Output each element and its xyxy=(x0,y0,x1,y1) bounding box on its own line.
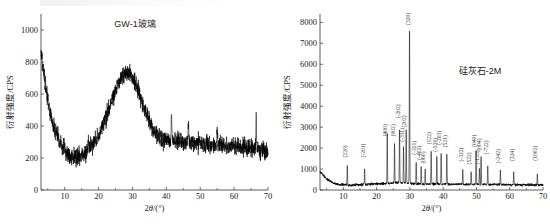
x-tick-label: 70 xyxy=(264,191,273,201)
x-axis-title-unit: /(°) xyxy=(153,203,165,213)
x-tick-label: 70 xyxy=(539,191,548,201)
x-tick-label: 30 xyxy=(406,191,415,201)
peak-index-label: (-322) xyxy=(458,147,465,161)
peak-index-label: (060) xyxy=(420,151,427,163)
x-tick-label: 10 xyxy=(60,191,69,201)
x-tick-label: 40 xyxy=(439,191,448,201)
axis-frame xyxy=(41,14,268,190)
x-tick-label: 30 xyxy=(128,191,137,201)
peak-index-label: (-242) xyxy=(495,149,502,163)
y-tick-label: 5000 xyxy=(300,80,317,90)
peak-index-label: (522) xyxy=(466,152,473,164)
y-tick-label: 4000 xyxy=(300,101,317,111)
peak-index-label: (521) xyxy=(442,135,449,147)
y-tick-label: 6000 xyxy=(300,59,317,69)
x-axis-title: 2θ/(°) xyxy=(145,203,165,213)
peak-index-label: (-722) xyxy=(483,140,490,154)
y-tick-label: 400 xyxy=(25,121,38,131)
y-tick-label: 200 xyxy=(25,153,38,163)
xrd-trace xyxy=(41,50,268,167)
peak-index-label: (320) xyxy=(405,13,412,25)
y-tick-label: 1000 xyxy=(300,164,317,174)
y-tick-label: 0 xyxy=(313,185,317,195)
y-axis-title: 衍射强度/CPS xyxy=(5,75,15,129)
x-tick-label: 60 xyxy=(505,191,514,201)
y-tick-label: 8000 xyxy=(300,17,317,27)
peak-index-label: (202) xyxy=(401,115,408,127)
y-axis-title: 衍射强度/CPS xyxy=(282,75,292,129)
x-tick-label: 10 xyxy=(339,191,348,201)
y-tick-label: 1000 xyxy=(21,25,38,35)
peak-index-label: (324) xyxy=(509,149,516,161)
series-title: 硅灰石-2M xyxy=(459,65,502,76)
xrd-plot-gw1: 1020304050607002004006008001000衍射强度/CPS2… xyxy=(0,0,275,224)
x-tick-label: 20 xyxy=(94,191,103,201)
xrd-trace xyxy=(320,31,543,186)
y-tick-label: 2000 xyxy=(300,143,317,153)
peak-index-label: (1002) xyxy=(532,146,539,161)
y-tick-label: 0 xyxy=(34,185,38,195)
x-tick-label: 20 xyxy=(372,191,381,201)
xrd-figure: 1020304050607002004006008001000衍射强度/CPS2… xyxy=(0,0,550,224)
peak-index-label: (-311) xyxy=(399,128,406,142)
peak-index-label: (400) xyxy=(382,124,389,136)
series-title: GW-1玻璃 xyxy=(114,18,155,29)
x-tick-label: 40 xyxy=(162,191,171,201)
y-tick-label: 7000 xyxy=(300,38,317,48)
xrd-plot-wollastonite: 1020304050607001000200030004000500060007… xyxy=(275,0,550,224)
x-axis-title: 2θ/(°) xyxy=(422,203,442,213)
peak-index-label: (-135) xyxy=(474,150,481,164)
chart-panel-right: 1020304050607001000200030004000500060007… xyxy=(275,0,550,224)
chart-panel-left: 1020304050607002004006008001000衍射强度/CPS2… xyxy=(0,0,275,224)
x-axis-title-unit: /(°) xyxy=(430,203,442,213)
peak-index-label: (002) xyxy=(390,124,397,136)
x-tick-label: 60 xyxy=(230,191,239,201)
x-tick-label: 50 xyxy=(472,191,481,201)
y-tick-label: 800 xyxy=(25,57,38,67)
peak-index-label: (220) xyxy=(342,145,349,157)
y-tick-label: 600 xyxy=(25,89,38,99)
x-tick-label: 50 xyxy=(196,191,205,201)
peak-index-label: (-201) xyxy=(360,143,367,157)
y-tick-label: 3000 xyxy=(300,122,317,132)
